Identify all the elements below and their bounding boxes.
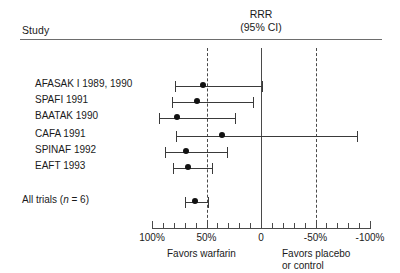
confidence-interval-line xyxy=(175,86,262,87)
confidence-interval-line xyxy=(172,102,254,103)
ci-cap-upper xyxy=(212,163,213,174)
axis-tick-minor xyxy=(239,223,240,228)
favors-placebo-line2: or control xyxy=(282,260,350,272)
axis-tick-minor xyxy=(185,223,186,228)
study-row: BAATAK 1990 xyxy=(0,108,400,124)
axis-tick-minor xyxy=(163,223,164,228)
point-estimate-marker xyxy=(192,198,198,204)
ci-cap-lower xyxy=(176,131,177,142)
study-row: SPINAF 1992 xyxy=(0,142,400,158)
study-row: AFASAK I 1989, 1990 xyxy=(0,76,400,92)
axis-tick-minor xyxy=(250,223,251,228)
forest-plot-figure: Study RRR (95% CI) AFASAK I 1989, 1990SP… xyxy=(0,0,400,273)
study-label: SPAFI 1991 xyxy=(35,93,88,107)
favors-placebo-label: Favors placeboor control xyxy=(282,248,350,272)
study-label: CAFA 1991 xyxy=(35,127,86,141)
ci-cap-upper xyxy=(357,131,358,142)
axis-tick-major xyxy=(207,221,208,228)
study-row: EAFT 1993 xyxy=(0,158,400,174)
axis-tick-major xyxy=(370,221,371,228)
confidence-interval-line xyxy=(173,168,212,169)
axis-tick-major xyxy=(316,221,317,228)
x-axis-line xyxy=(152,228,371,229)
axis-tick-minor xyxy=(305,223,306,228)
study-row: SPAFI 1991 xyxy=(0,92,400,108)
axis-tick-minor xyxy=(196,223,197,228)
ci-cap-upper xyxy=(253,97,254,108)
favors-placebo-line1: Favors placebo xyxy=(282,248,350,260)
study-label: SPINAF 1992 xyxy=(35,143,96,157)
axis-tick-label: -100% xyxy=(356,232,385,243)
ci-cap-upper xyxy=(262,81,263,92)
ci-cap-upper xyxy=(227,147,228,158)
ci-cap-lower xyxy=(165,147,166,158)
axis-tick-label: 100% xyxy=(139,232,165,243)
study-label: BAATAK 1990 xyxy=(35,109,98,123)
point-estimate-marker xyxy=(174,114,180,120)
axis-tick-label: 0 xyxy=(258,232,264,243)
ci-cap-upper xyxy=(208,197,209,208)
ci-cap-lower xyxy=(175,81,176,92)
axis-tick-minor xyxy=(217,223,218,228)
favors-warfarin-label: Favors warfarin xyxy=(167,248,236,260)
axis-tick-minor xyxy=(174,223,175,228)
axis-tick-minor xyxy=(348,223,349,228)
axis-tick-major xyxy=(261,221,262,228)
axis-tick-minor xyxy=(283,223,284,228)
axis-tick-major xyxy=(152,221,153,228)
point-estimate-marker xyxy=(219,132,225,138)
ci-cap-lower xyxy=(185,197,186,208)
axis-tick-label: 50% xyxy=(196,232,216,243)
ci-cap-lower xyxy=(159,113,160,124)
axis-tick-minor xyxy=(272,223,273,228)
ci-cap-lower xyxy=(173,163,174,174)
axis-tick-label: -50% xyxy=(304,232,327,243)
study-label: AFASAK I 1989, 1990 xyxy=(35,77,132,91)
point-estimate-marker xyxy=(194,98,200,104)
ci-cap-upper xyxy=(235,113,236,124)
ci-cap-lower xyxy=(172,97,173,108)
axis-tick-minor xyxy=(337,223,338,228)
confidence-interval-line xyxy=(165,152,227,153)
summary-label: All trials (n = 6) xyxy=(22,193,89,207)
axis-tick-minor xyxy=(228,223,229,228)
point-estimate-marker xyxy=(183,148,189,154)
confidence-interval-line xyxy=(176,136,357,137)
point-estimate-marker xyxy=(185,164,191,170)
summary-row: All trials (n = 6) xyxy=(0,192,400,208)
axis-tick-minor xyxy=(359,223,360,228)
plot-area: AFASAK I 1989, 1990SPAFI 1991BAATAK 1990… xyxy=(0,0,400,273)
axis-tick-minor xyxy=(294,223,295,228)
axis-tick-minor xyxy=(326,223,327,228)
study-row: CAFA 1991 xyxy=(0,126,400,142)
point-estimate-marker xyxy=(200,82,206,88)
study-label: EAFT 1993 xyxy=(35,159,85,173)
confidence-interval-line xyxy=(159,118,235,119)
